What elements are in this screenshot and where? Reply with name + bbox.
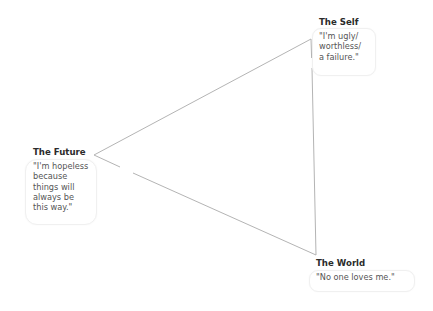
quote-self: "I'm ugly/ worthless/ a failure." [319,31,379,62]
node-future: The Future "I'm hopeless because things … [33,147,103,212]
node-title-world: The World [316,258,426,269]
node-self: The Self "I'm ugly/ worthless/ a failure… [319,17,379,62]
node-world: The World "No one loves me." [316,258,426,282]
node-title-future: The Future [33,147,103,158]
edge-future-self [94,39,311,155]
cognitive-triad-diagram: The Self "I'm ugly/ worthless/ a failure… [0,0,433,311]
quote-world: "No one loves me." [316,272,426,282]
node-title-self: The Self [319,17,379,28]
edge-self-world [312,68,316,255]
edge-future-world [133,173,316,255]
quote-future: "I'm hopeless because things will always… [33,161,103,212]
